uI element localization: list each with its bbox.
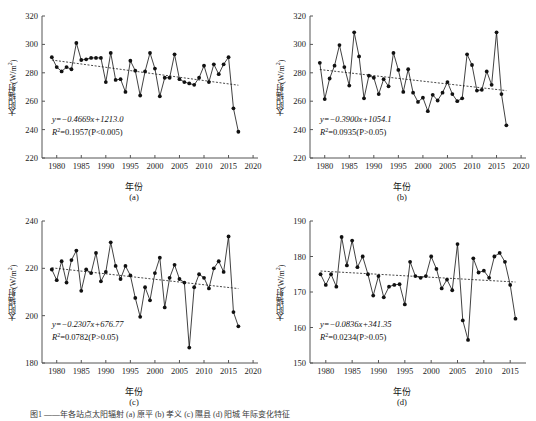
svg-text:2005: 2005 [171,161,188,171]
svg-text:y=−0.2307x+676.77: y=−0.2307x+676.77 [51,319,124,329]
svg-text:R2=0.1957(P<0.005): R2=0.1957(P<0.005) [51,127,123,137]
svg-text:2010: 2010 [464,161,481,171]
panel-d-plot: 1501601701801901980198519901995200020052… [268,205,536,410]
svg-text:1995: 1995 [122,161,139,171]
svg-text:180: 180 [293,252,306,262]
panel-b-caption: (b) [268,192,536,202]
svg-text:280: 280 [293,68,306,78]
svg-text:150: 150 [293,358,306,368]
svg-text:240: 240 [25,216,38,226]
svg-text:y=−0.0836x+341.35: y=−0.0836x+341.35 [319,319,392,329]
svg-text:2010: 2010 [475,366,492,376]
panel-d-caption: (d) [268,397,536,407]
svg-text:y=−0.3900x+1054.1: y=−0.3900x+1054.1 [319,114,392,124]
svg-text:2010: 2010 [196,366,213,376]
panel-b: 太阳辐射(W/m2) 22024026028030032019801985199… [268,0,536,205]
panel-a-svg: 2202402602803003201980198519901995200020… [0,0,268,205]
svg-text:R2=0.0234(P>0.05): R2=0.0234(P>0.05) [319,332,387,342]
svg-text:260: 260 [25,96,38,106]
svg-text:1985: 1985 [344,366,361,376]
svg-text:320: 320 [293,11,306,21]
panel-b-plot: 2202402602803003201980198519901995200020… [268,0,536,205]
svg-text:2020: 2020 [513,161,530,171]
svg-text:1985: 1985 [341,161,358,171]
panel-c-plot: 1802002202401980198519901995200020052010… [0,205,268,410]
svg-text:2000: 2000 [423,366,440,376]
panel-c-caption: (c) [0,397,268,407]
svg-text:320: 320 [25,11,38,21]
svg-text:200: 200 [25,311,38,321]
svg-text:1990: 1990 [97,161,114,171]
svg-text:2010: 2010 [196,161,213,171]
svg-text:2005: 2005 [171,366,188,376]
svg-text:300: 300 [25,39,38,49]
svg-text:2005: 2005 [439,161,456,171]
panel-a: 太阳辐射(W/m2) 22024026028030032019801985199… [0,0,268,205]
svg-text:2015: 2015 [220,161,237,171]
svg-text:1985: 1985 [73,366,90,376]
svg-text:2000: 2000 [146,161,163,171]
svg-text:1980: 1980 [316,161,333,171]
svg-text:1985: 1985 [73,161,90,171]
svg-text:1995: 1995 [390,161,407,171]
svg-text:240: 240 [25,125,38,135]
svg-text:300: 300 [293,39,306,49]
svg-text:280: 280 [25,68,38,78]
svg-text:260: 260 [293,96,306,106]
svg-text:1990: 1990 [365,161,382,171]
svg-text:170: 170 [293,287,306,297]
svg-text:R2=0.0782(P>0.05): R2=0.0782(P>0.05) [51,332,119,342]
panel-c: 太阳辐射(W/m2) 18020022024019801985199019952… [0,205,268,410]
svg-text:2015: 2015 [220,366,237,376]
svg-text:240: 240 [293,125,306,135]
svg-text:R2=0.0935(P>0.05): R2=0.0935(P>0.05) [319,127,387,137]
svg-text:220: 220 [25,153,38,163]
svg-text:2015: 2015 [502,366,519,376]
svg-text:2000: 2000 [146,366,163,376]
svg-text:220: 220 [25,263,38,273]
figure-caption-strip: 图1 ——年各站点太阳辐射 (a) 原平 (b) 孝义 (c) 隰县 (d) 阳… [0,409,536,421]
svg-text:160: 160 [293,323,306,333]
svg-text:2015: 2015 [488,161,505,171]
panel-d-svg: 1501601701801901980198519901995200020052… [268,205,536,410]
svg-text:1995: 1995 [122,366,139,376]
panel-b-svg: 2202402602803003201980198519901995200020… [268,0,536,205]
panel-d: 太阳辐射(W/m2) 15016017018019019801985199019… [268,205,536,410]
svg-text:y=−0.4669x+1213.0: y=−0.4669x+1213.0 [51,114,124,124]
svg-text:1980: 1980 [48,161,65,171]
panel-a-caption: (a) [0,192,268,202]
figure-caption: 图1 ——年各站点太阳辐射 (a) 原平 (b) 孝义 (c) 隰县 (d) 阳… [30,409,290,419]
svg-text:1995: 1995 [396,366,413,376]
svg-text:1980: 1980 [317,366,334,376]
panel-c-svg: 1802002202401980198519901995200020052010… [0,205,268,410]
svg-text:2020: 2020 [245,161,262,171]
svg-text:2005: 2005 [449,366,466,376]
panel-a-plot: 2202402602803003201980198519901995200020… [0,0,268,205]
figure-root: 太阳辐射(W/m2) 22024026028030032019801985199… [0,0,536,421]
svg-text:190: 190 [293,216,306,226]
svg-text:180: 180 [25,358,38,368]
svg-text:1980: 1980 [48,366,65,376]
svg-text:1990: 1990 [97,366,114,376]
svg-text:220: 220 [293,153,306,163]
svg-text:1990: 1990 [370,366,387,376]
svg-text:2020: 2020 [245,366,262,376]
svg-text:2000: 2000 [414,161,431,171]
